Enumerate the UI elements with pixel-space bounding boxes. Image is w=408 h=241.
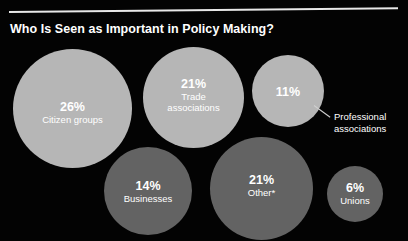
- header-divider-rule: [9, 7, 398, 13]
- bubble-value-trade-associations: 21%: [167, 77, 219, 91]
- bubble-citizen-groups[interactable]: 26% Citizen groups: [13, 49, 132, 168]
- bubble-name-other: Other*: [248, 188, 275, 199]
- bubble-trade-associations[interactable]: 21% Trade associations: [143, 47, 244, 148]
- bubble-value-other: 21%: [248, 173, 275, 187]
- callout-label-professional-associations: Professional associations: [334, 111, 386, 135]
- bubble-other[interactable]: 21% Other*: [210, 137, 313, 240]
- bubble-businesses[interactable]: 14% Businesses: [104, 147, 192, 235]
- bubble-name-trade-associations: Trade associations: [167, 92, 219, 113]
- bubble-value-unions: 6%: [340, 181, 370, 195]
- bubble-value-professional-associations: 11%: [276, 85, 300, 99]
- bubble-professional-associations[interactable]: 11%: [252, 55, 324, 127]
- bubble-label-stack: 14% Businesses: [124, 179, 173, 205]
- bubble-value-citizen-groups: 26%: [42, 100, 103, 114]
- bubble-label-stack: 21% Other*: [248, 173, 275, 199]
- bubble-name-citizen-groups: Citizen groups: [42, 115, 103, 126]
- bubble-value-businesses: 14%: [124, 179, 173, 193]
- bubble-label-stack: 26% Citizen groups: [42, 100, 103, 126]
- bubble-label-stack: 6% Unions: [340, 181, 370, 207]
- bubble-name-unions: Unions: [340, 196, 370, 207]
- bubble-unions[interactable]: 6% Unions: [327, 166, 383, 222]
- bubble-label-stack: 11%: [276, 85, 300, 99]
- bubble-label-stack: 21% Trade associations: [167, 77, 219, 113]
- chart-title: Who Is Seen as Important in Policy Makin…: [10, 22, 274, 36]
- bubble-chart: Who Is Seen as Important in Policy Makin…: [0, 0, 408, 241]
- bubble-name-businesses: Businesses: [124, 194, 173, 205]
